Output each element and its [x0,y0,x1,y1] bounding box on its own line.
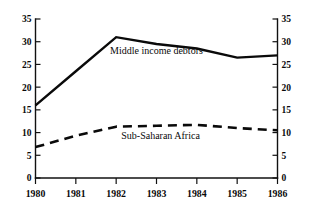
series-annotation-2: Sub-Saharan Africa [121,130,200,141]
x-axis-ticks [36,178,278,184]
right-tick-label-5: 5 [282,151,287,161]
left-axis-ticks [36,19,41,178]
right-axis-ticks [273,19,278,178]
right-tick-label-20: 20 [282,83,292,93]
right-tick-label-15: 15 [282,105,292,115]
left-tick-label-25: 25 [22,60,32,70]
x-tick-label-1986: 1986 [268,188,288,199]
chart-container: 05101520253035 05101520253035 1980198119… [0,0,311,209]
x-tick-label-1980: 1980 [26,188,46,199]
left-tick-label-5: 5 [27,151,32,161]
right-y-axis: 05101520253035 [273,14,292,183]
right-tick-label-25: 25 [282,60,292,70]
right-tick-label-30: 30 [282,37,292,47]
left-tick-label-20: 20 [22,83,32,93]
left-tick-label-15: 15 [22,105,32,115]
right-axis-tick-labels: 05101520253035 [282,14,292,183]
left-axis-tick-labels: 05101520253035 [22,14,32,183]
left-tick-label-0: 0 [27,173,32,183]
x-tick-label-1985: 1985 [227,188,247,199]
x-tick-label-1983: 1983 [147,188,167,199]
x-axis: 1980198119821983198419851986 [26,178,288,199]
x-tick-label-1984: 1984 [187,188,207,199]
left-tick-label-35: 35 [22,14,32,24]
x-axis-tick-labels: 1980198119821983198419851986 [26,188,288,199]
right-tick-label-0: 0 [282,173,287,183]
x-tick-label-1981: 1981 [66,188,86,199]
x-tick-label-1982: 1982 [106,188,126,199]
right-tick-label-10: 10 [282,128,292,138]
left-tick-label-10: 10 [22,128,32,138]
left-tick-label-30: 30 [22,37,32,47]
left-y-axis: 05101520253035 [22,14,41,183]
right-tick-label-35: 35 [282,14,292,24]
line-chart: 05101520253035 05101520253035 1980198119… [0,0,311,209]
series-annotation-1: Middle income debtors [110,45,203,56]
